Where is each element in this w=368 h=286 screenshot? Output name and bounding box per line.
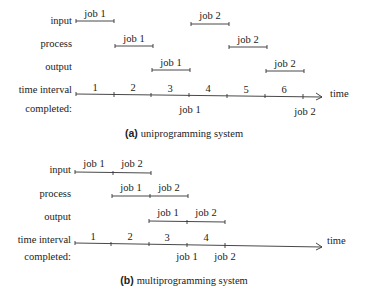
completed-job2: job 2 bbox=[213, 251, 235, 262]
row-label-process: process bbox=[40, 188, 72, 199]
svg-text:job 1: job 1 bbox=[159, 57, 181, 68]
process-bar-job1: job 1 bbox=[115, 33, 153, 48]
process-bar-job2: job 2 bbox=[229, 34, 267, 49]
row-label-time-interval: time interval bbox=[19, 84, 72, 95]
multiprogramming-diagram: input process output time interval compl… bbox=[18, 158, 346, 286]
process-job2: job 2 bbox=[157, 182, 179, 193]
interval-6: 6 bbox=[281, 84, 286, 95]
output-bar-job1: job 1 bbox=[152, 57, 190, 72]
input-bar-multi: job 1 job 2 bbox=[75, 158, 151, 175]
caption-a: (a)uniprogramming system bbox=[125, 127, 243, 139]
process-bar-multi: job 1 job 2 bbox=[112, 182, 188, 198]
row-label-output: output bbox=[44, 211, 71, 222]
interval-4: 4 bbox=[203, 232, 209, 243]
svg-text:job 2: job 2 bbox=[198, 10, 220, 21]
input-bar-job1: job 1 bbox=[76, 8, 114, 23]
output-job2: job 2 bbox=[194, 207, 216, 218]
svg-text:job 2: job 2 bbox=[236, 34, 258, 45]
completed-job2: job 2 bbox=[293, 106, 315, 117]
completed-job1: job 1 bbox=[175, 251, 197, 262]
interval-2: 2 bbox=[127, 231, 132, 242]
interval-3: 3 bbox=[167, 83, 172, 94]
time-axis-a: 1 2 3 4 5 6 time bbox=[76, 82, 349, 100]
output-job1: job 1 bbox=[156, 207, 178, 218]
svg-text:job 2: job 2 bbox=[273, 58, 295, 69]
output-bar-job2: job 2 bbox=[266, 58, 304, 73]
row-label-time-interval: time interval bbox=[18, 234, 71, 245]
time-axis-b: 1 2 3 4 time bbox=[75, 231, 346, 250]
output-bar-multi: job 1 job 2 bbox=[149, 207, 225, 224]
input-bar-job2: job 2 bbox=[191, 10, 229, 26]
interval-1: 1 bbox=[92, 82, 97, 93]
row-label-input: input bbox=[50, 15, 72, 26]
interval-2: 2 bbox=[130, 82, 135, 93]
time-label: time bbox=[330, 88, 349, 99]
svg-text:job 1: job 1 bbox=[122, 33, 144, 44]
process-job1: job 1 bbox=[119, 182, 141, 193]
interval-5: 5 bbox=[243, 84, 248, 95]
interval-1: 1 bbox=[90, 231, 95, 242]
input-job2: job 2 bbox=[120, 158, 142, 169]
row-label-completed: completed: bbox=[24, 251, 71, 262]
input-job1: job 1 bbox=[82, 158, 104, 169]
svg-text:job 1: job 1 bbox=[83, 8, 105, 19]
interval-3: 3 bbox=[164, 232, 169, 243]
row-label-input: input bbox=[49, 164, 71, 175]
interval-4: 4 bbox=[205, 83, 211, 94]
caption-b: (b)multiprogramming system bbox=[120, 274, 248, 286]
completed-job1: job 1 bbox=[178, 104, 200, 115]
row-label-output: output bbox=[45, 61, 72, 72]
row-label-process: process bbox=[41, 38, 73, 49]
timing-diagram: input process output time interval compl… bbox=[0, 0, 368, 286]
time-label: time bbox=[327, 235, 346, 246]
uniprogramming-diagram: input process output time interval compl… bbox=[19, 8, 349, 139]
row-label-completed: completed: bbox=[25, 103, 72, 114]
